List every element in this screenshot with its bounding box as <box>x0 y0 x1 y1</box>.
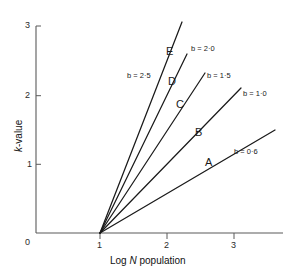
series-label-c: C <box>176 99 184 110</box>
slope-annotation-c: b = 1·5 <box>207 72 231 80</box>
y-tick-label-0: 0 <box>25 238 30 247</box>
plot-area <box>0 0 289 273</box>
x-axis-title-prefix: Log <box>110 255 129 266</box>
x-axis-title-suffix: population <box>137 255 186 266</box>
series-label-a: A <box>205 157 212 168</box>
x-tick-label-2: 2 <box>164 241 169 250</box>
slope-annotation-a: b = 0·6 <box>234 148 258 156</box>
slope-annotation-d: b = 2·0 <box>191 45 215 53</box>
series-label-d: D <box>168 76 176 87</box>
y-tick-label-3: 3 <box>25 21 30 30</box>
x-axis-title-variable: N <box>129 255 136 266</box>
y-axis-title: k-value <box>14 120 24 152</box>
chart-figure: 3 2 1 0 1 2 3 Log N population k-value A… <box>0 0 289 273</box>
x-axis-title: Log N population <box>110 256 186 266</box>
y-tick-label-1: 1 <box>27 160 32 169</box>
x-tick-label-3: 3 <box>231 241 236 250</box>
series-line-a <box>100 130 275 233</box>
series-label-b: B <box>195 127 202 138</box>
y-axis-title-suffix: -value <box>13 120 24 147</box>
slope-annotation-b: b = 1·0 <box>243 90 267 98</box>
series-label-e: E <box>166 46 173 57</box>
y-axis-title-variable: k <box>13 147 24 152</box>
series-line-b <box>100 88 241 233</box>
x-tick-label-1: 1 <box>97 241 102 250</box>
slope-annotation-e: b = 2·5 <box>127 72 151 80</box>
y-tick-label-2: 2 <box>25 91 30 100</box>
